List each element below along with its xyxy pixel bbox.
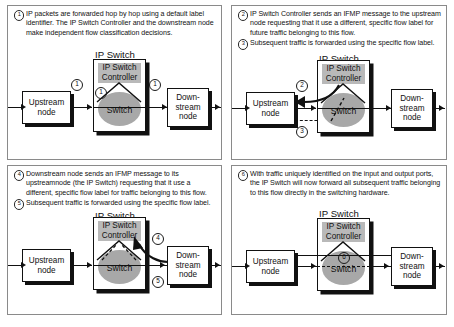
caption-line: 2 IP Switch Controller sends an IFMP mes… (238, 10, 441, 38)
output-arrowhead (215, 262, 220, 268)
downstream-node-label: Down-streamnode (175, 251, 200, 279)
input-wire (232, 266, 246, 267)
caption-line: 1 IP packets are forwarded hop by hop us… (14, 10, 216, 38)
caption-line: 6 With traffic uniquely identified on th… (238, 170, 441, 198)
figure-root: 1 IP packets are forwarded hop by hop us… (0, 0, 454, 327)
controller-label: IP SwitchController (102, 63, 138, 82)
upstream-node-label: Upstreamnode (253, 99, 289, 118)
upstream-node-label: Upstreamnode (29, 256, 65, 275)
panel-2-caption: 2 IP Switch Controller sends an IFMP mes… (238, 10, 441, 48)
panel-1-diagram: IP Switch Upstreamnode IP SwitchControll… (8, 51, 221, 160)
upstream-node-label: Upstreamnode (29, 98, 65, 117)
panel-3-diagram: IP Switch Upstreamnode IP SwitchControll… (8, 216, 221, 315)
step-number-badge: 6 (238, 170, 248, 180)
wire-through-switch (93, 107, 146, 108)
downstream-node-label: Down-streamnode (175, 93, 200, 121)
upstream-node: Upstreamnode (22, 249, 71, 282)
panel-1: 1 IP packets are forwarded hop by hop us… (7, 5, 222, 160)
step-marker-2: 2 (296, 80, 308, 92)
input-wire (232, 108, 246, 109)
step-number-badge: 2 (238, 10, 248, 20)
panel-2: 2 IP Switch Controller sends an IFMP mes… (231, 5, 447, 160)
input-arrowhead (245, 105, 250, 111)
output-arrowhead (439, 263, 444, 269)
step-marker-1c: 1 (149, 79, 161, 91)
step-number-badge: 5 (14, 199, 24, 209)
step-text: IP packets are forwarded hop by hop usin… (26, 10, 214, 37)
panel-4-diagram: IP Switch Upstreamnode IP SwitchControll… (232, 208, 446, 315)
step-marker-5: 5 (152, 276, 164, 288)
step-text: IP Switch Controller sends an IFMP messa… (250, 10, 441, 37)
step-text: Downstream node sends an IFMP message to… (26, 170, 207, 197)
step-text: Subsequent traffic is forwarded using th… (250, 39, 434, 47)
upstream-node: Upstreamnode (246, 92, 295, 125)
panel-4: 6 With traffic uniquely identified on th… (231, 165, 447, 315)
upstream-node: Upstreamnode (246, 250, 295, 283)
caption-line: 3 Subsequent traffic is forwarded using … (238, 39, 441, 48)
ip-switch-controller: IP SwitchController (98, 63, 141, 83)
panel-1-caption: 1 IP packets are forwarded hop by hop us… (14, 10, 216, 38)
panel-3: 4 Downstream node sends an IFMP message … (7, 165, 222, 315)
step-marker-4: 4 (152, 233, 164, 245)
input-wire (8, 107, 22, 108)
step-number-badge: 1 (14, 10, 24, 20)
arrowhead-into-switch (87, 104, 92, 110)
downstream-node-label: Down-streamnode (399, 252, 424, 280)
output-arrowhead (439, 105, 444, 111)
input-arrowhead (21, 104, 26, 110)
arrowhead-into-downstream (386, 105, 391, 111)
downstream-node: Down-streamnode (167, 246, 209, 285)
arrowhead-into-downstream (162, 104, 167, 110)
controller-label: IP SwitchController (326, 222, 362, 241)
step-text: Subsequent traffic is forwarded using th… (26, 199, 210, 207)
downstream-node: Down-streamnode (167, 88, 209, 127)
step-marker-6: 6 (338, 252, 350, 264)
arrowhead-into-downstream (384, 263, 389, 269)
caption-line: 4 Downstream node sends an IFMP message … (14, 170, 216, 198)
downstream-node-label: Down-streamnode (399, 94, 424, 122)
input-arrowhead (245, 263, 250, 269)
hardware-switched-dashed-path (317, 266, 370, 267)
step-number-badge: 4 (14, 170, 24, 180)
ip-switch-controller: IP SwitchController (322, 222, 365, 242)
panel-2-diagram: IP Switch Upstreamnode IP SwitchControll… (232, 56, 446, 160)
input-arrowhead (21, 262, 26, 268)
upstream-node-label: Upstreamnode (253, 257, 289, 276)
step-marker-1a: 1 (71, 79, 83, 91)
arrowhead-into-switch (87, 262, 92, 268)
step-marker-1b: 1 (95, 87, 107, 99)
step-text: With traffic uniquely identified on the … (250, 170, 440, 197)
step-marker-3: 3 (296, 126, 308, 138)
wire-lower-in (295, 266, 317, 267)
output-arrowhead (215, 104, 220, 110)
downstream-node: Down-streamnode (391, 89, 433, 128)
input-wire (8, 265, 22, 266)
panel-4-caption: 6 With traffic uniquely identified on th… (238, 170, 441, 198)
step-number-badge: 3 (238, 39, 248, 49)
caption-line: 5 Subsequent traffic is forwarded using … (14, 199, 216, 208)
panel-3-caption: 4 Downstream node sends an IFMP message … (14, 170, 216, 208)
upstream-node: Upstreamnode (22, 91, 71, 124)
downstream-node: Down-streamnode (391, 247, 433, 286)
